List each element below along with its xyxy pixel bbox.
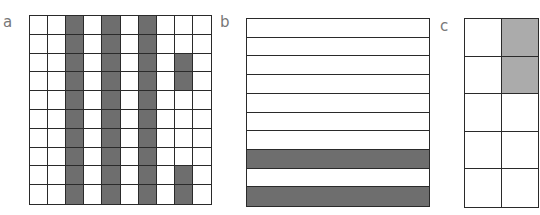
grid-cell [48, 91, 66, 110]
grid-cell [48, 72, 66, 91]
shaded-cell [139, 54, 157, 73]
shaded-cell [66, 185, 84, 204]
shaded-cell [502, 57, 539, 95]
grid-cell [84, 16, 102, 35]
grid-cell [48, 129, 66, 148]
shaded-cell [66, 110, 84, 129]
panel-b-grid [246, 18, 430, 207]
shaded-cell [66, 129, 84, 148]
grid-cell [30, 35, 48, 54]
shaded-cell [102, 54, 120, 73]
grid-cell [121, 166, 139, 185]
shaded-cell [139, 91, 157, 110]
shaded-cell [66, 35, 84, 54]
grid-cell [84, 166, 102, 185]
grid-cell [193, 166, 211, 185]
grid-cell [193, 129, 211, 148]
grid-cell [175, 148, 193, 167]
grid-cell [247, 113, 429, 132]
grid-cell [502, 132, 539, 170]
panel-c-label: c [440, 19, 448, 34]
grid-cell [247, 94, 429, 113]
grid-cell [465, 94, 502, 132]
shaded-cell [102, 91, 120, 110]
shaded-cell [102, 35, 120, 54]
grid-cell [48, 148, 66, 167]
grid-cell [157, 72, 175, 91]
shaded-cell [175, 72, 193, 91]
grid-cell [30, 54, 48, 73]
grid-cell [84, 110, 102, 129]
grid-cell [247, 169, 429, 188]
grid-cell [247, 131, 429, 150]
shaded-cell [175, 54, 193, 73]
grid-cell [465, 169, 502, 207]
grid-cell [84, 91, 102, 110]
grid-cell [193, 110, 211, 129]
grid-cell [247, 38, 429, 57]
grid-cell [193, 91, 211, 110]
grid-cell [84, 72, 102, 91]
grid-cell [465, 19, 502, 57]
grid-cell [502, 94, 539, 132]
grid-cell [84, 54, 102, 73]
shaded-cell [66, 54, 84, 73]
shaded-cell [247, 187, 429, 206]
shaded-cell [102, 166, 120, 185]
shaded-cell [139, 185, 157, 204]
grid-cell [193, 185, 211, 204]
shaded-cell [139, 35, 157, 54]
grid-cell [157, 35, 175, 54]
grid-cell [193, 72, 211, 91]
shaded-cell [102, 110, 120, 129]
panel-a-grid [29, 15, 212, 205]
grid-cell [121, 16, 139, 35]
grid-cell [30, 91, 48, 110]
grid-cell [121, 35, 139, 54]
shaded-cell [139, 148, 157, 167]
grid-cell [84, 129, 102, 148]
grid-cell [157, 54, 175, 73]
grid-cell [157, 110, 175, 129]
grid-cell [121, 110, 139, 129]
grid-cell [157, 129, 175, 148]
grid-cell [30, 185, 48, 204]
grid-cell [157, 148, 175, 167]
grid-cell [30, 166, 48, 185]
grid-cell [193, 54, 211, 73]
shaded-cell [175, 166, 193, 185]
grid-cell [30, 16, 48, 35]
shaded-cell [102, 16, 120, 35]
grid-cell [30, 129, 48, 148]
grid-cell [30, 72, 48, 91]
grid-cell [84, 148, 102, 167]
shaded-cell [175, 185, 193, 204]
grid-cell [48, 110, 66, 129]
grid-cell [157, 185, 175, 204]
shaded-cell [102, 185, 120, 204]
shaded-cell [66, 72, 84, 91]
grid-cell [175, 16, 193, 35]
grid-cell [175, 129, 193, 148]
shaded-cell [139, 72, 157, 91]
grid-cell [175, 110, 193, 129]
grid-cell [247, 75, 429, 94]
grid-cell [121, 148, 139, 167]
shaded-cell [66, 91, 84, 110]
shaded-cell [139, 110, 157, 129]
grid-cell [84, 185, 102, 204]
grid-cell [175, 91, 193, 110]
shaded-cell [102, 72, 120, 91]
grid-cell [30, 110, 48, 129]
grid-cell [193, 35, 211, 54]
grid-cell [247, 19, 429, 38]
shaded-cell [66, 16, 84, 35]
shaded-cell [66, 148, 84, 167]
shaded-cell [502, 19, 539, 57]
shaded-cell [139, 129, 157, 148]
grid-cell [48, 185, 66, 204]
shaded-cell [102, 148, 120, 167]
grid-cell [157, 166, 175, 185]
grid-cell [48, 54, 66, 73]
grid-cell [30, 148, 48, 167]
